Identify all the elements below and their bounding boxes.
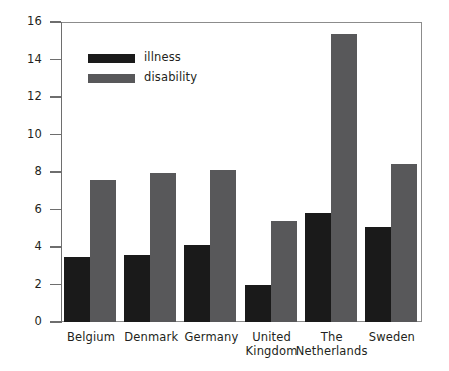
legend: illness disability	[88, 48, 197, 88]
y-axis-tick	[50, 246, 61, 247]
legend-label-disability: disability	[144, 72, 197, 84]
y-axis-tick	[50, 284, 61, 285]
bar-disability	[210, 170, 236, 322]
y-axis-tick	[50, 21, 61, 22]
bar-illness	[245, 285, 271, 323]
bar-group	[302, 22, 362, 322]
y-axis-tick-label: 4	[0, 241, 42, 253]
bar-illness	[365, 227, 391, 322]
bar-illness	[305, 213, 331, 322]
bar-disability	[271, 221, 297, 322]
legend-label-illness: illness	[144, 52, 181, 64]
y-axis-tick-label: 2	[0, 279, 42, 291]
y-axis-tick-label: 0	[0, 316, 42, 328]
y-axis-tick	[50, 209, 61, 210]
y-axis-tick-label: 16	[0, 16, 42, 28]
bar-disability	[331, 34, 357, 322]
y-axis-tick-label: 8	[0, 166, 42, 178]
y-axis-tick	[50, 96, 61, 97]
legend-item-illness: illness	[88, 48, 197, 68]
y-axis-tick-label: 6	[0, 204, 42, 216]
bar-chart: 0246810121416 BelgiumDenmarkGermanyUnite…	[0, 0, 449, 371]
y-axis-tick	[50, 59, 61, 60]
bar-group	[242, 22, 302, 322]
bar-disability	[391, 164, 417, 322]
bar-illness	[124, 255, 150, 323]
legend-swatch-disability	[88, 74, 135, 83]
y-axis-tick	[50, 321, 61, 322]
legend-item-disability: disability	[88, 68, 197, 88]
x-axis-tick-label-line: Sweden	[352, 330, 432, 344]
y-axis-tick-label: 14	[0, 54, 42, 66]
y-axis-tick-label: 10	[0, 129, 42, 141]
bar-illness	[184, 245, 210, 322]
legend-swatch-illness	[88, 54, 135, 63]
y-axis-tick-label: 12	[0, 91, 42, 103]
bar-disability	[150, 173, 176, 322]
bar-disability	[90, 180, 116, 323]
x-axis-tick-label: Sweden	[352, 330, 432, 344]
x-axis-tick-label-line: Netherlands	[292, 344, 372, 358]
y-axis-tick	[50, 171, 61, 172]
bar-group	[362, 22, 422, 322]
y-axis-tick	[50, 134, 61, 135]
bar-illness	[64, 257, 90, 322]
